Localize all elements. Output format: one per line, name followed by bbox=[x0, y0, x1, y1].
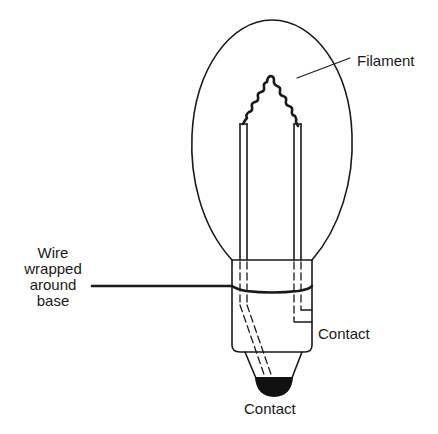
glass-envelope bbox=[192, 20, 352, 260]
wire-label-line-4: base bbox=[14, 293, 92, 309]
bottom-contact-label: Contact bbox=[244, 400, 296, 417]
wire-label-line-3: around bbox=[14, 277, 92, 293]
side-contact-tab bbox=[294, 310, 312, 322]
filament-leader-line bbox=[297, 58, 350, 78]
bulb-diagram: Filament Wire wrapped around base Contac… bbox=[0, 0, 438, 434]
side-contact-label: Contact bbox=[318, 325, 370, 342]
filament-label: Filament bbox=[357, 52, 415, 69]
wrap-wire bbox=[92, 286, 312, 293]
bottom-contact bbox=[255, 377, 293, 397]
wire-label: Wire wrapped around base bbox=[14, 245, 92, 309]
lead-wires bbox=[240, 124, 301, 260]
filament-coil bbox=[243, 76, 298, 126]
wire-label-line-2: wrapped bbox=[14, 261, 92, 277]
wire-label-line-1: Wire bbox=[14, 245, 92, 261]
internal-wires bbox=[240, 262, 301, 383]
base-shell bbox=[232, 260, 312, 352]
